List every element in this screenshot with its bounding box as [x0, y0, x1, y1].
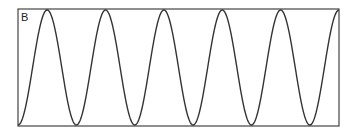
sinusoid-line [18, 10, 339, 125]
chart-plot [0, 0, 355, 135]
panel-label: B [21, 11, 28, 23]
